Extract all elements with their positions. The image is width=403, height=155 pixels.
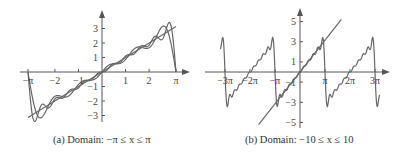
panel-a-caption: (a) Domain: −π ≤ x ≤ π [53,134,150,145]
panel-b-caption: (b) Domain: −10 ≤ x ≤ 10 [245,134,353,145]
y-tick-label: −5 [285,117,296,128]
y-tick-label: 5 [291,16,296,27]
x-tick-label: π [173,75,178,86]
x-tick-label: −π [270,75,281,86]
figure-canvas: −π−2−112π321−1−2−3 −3π−2π−ππ2π3π531−1−3−… [0,0,403,155]
y-tick-label: −1 [285,77,296,88]
x-tick-label: 1 [123,75,128,86]
panel-b-axes [205,8,390,128]
x-axis-arrow-icon [382,69,390,75]
y-tick-label: 3 [291,36,296,47]
y-tick-label: 1 [93,52,98,63]
panel-b-plot: −3π−2π−ππ2π3π531−1−3−5 [205,8,390,128]
x-tick-label: 2 [147,75,152,86]
x-tick-label: −1 [73,75,84,86]
y-tick-label: −1 [87,81,98,92]
x-tick-label: −3π [217,75,233,86]
x-tick-label: π [322,75,327,86]
y-tick-label: 3 [93,23,98,34]
y-tick-label: −2 [87,96,98,107]
y-axis-arrow-icon [99,10,105,18]
x-tick-label: −2π [242,75,258,86]
y-tick-label: 1 [291,56,296,67]
x-tick-label: 3π [370,75,380,86]
x-axis-arrow-icon [182,69,190,75]
x-tick-label: 2π [345,75,355,86]
panel-a-plot: −π−2−112π321−1−2−3 [20,10,190,122]
y-tick-label: 2 [93,38,98,49]
y-axis-arrow-icon [297,8,303,16]
x-tick-label: −π [23,75,34,86]
x-tick-label: −2 [50,75,61,86]
y-tick-label: −3 [87,110,98,121]
y-tick-label: −3 [285,97,296,108]
